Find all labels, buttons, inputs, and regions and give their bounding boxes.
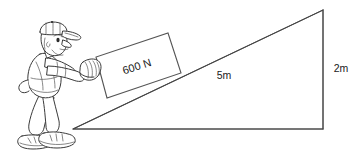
diagram-canvas: 600 N 5m 2m xyxy=(0,0,364,166)
person-nose xyxy=(62,40,71,47)
pushing-hand xyxy=(80,59,101,80)
person-back-flap xyxy=(19,80,29,93)
person-eye xyxy=(56,38,59,42)
person-pushing xyxy=(18,21,101,149)
ramp-length-label: 5m xyxy=(217,69,232,81)
cap-button xyxy=(51,21,53,23)
physics-diagram-figure: 600 N 5m 2m xyxy=(0,0,364,166)
ramp-height-label: 2m xyxy=(334,62,349,74)
